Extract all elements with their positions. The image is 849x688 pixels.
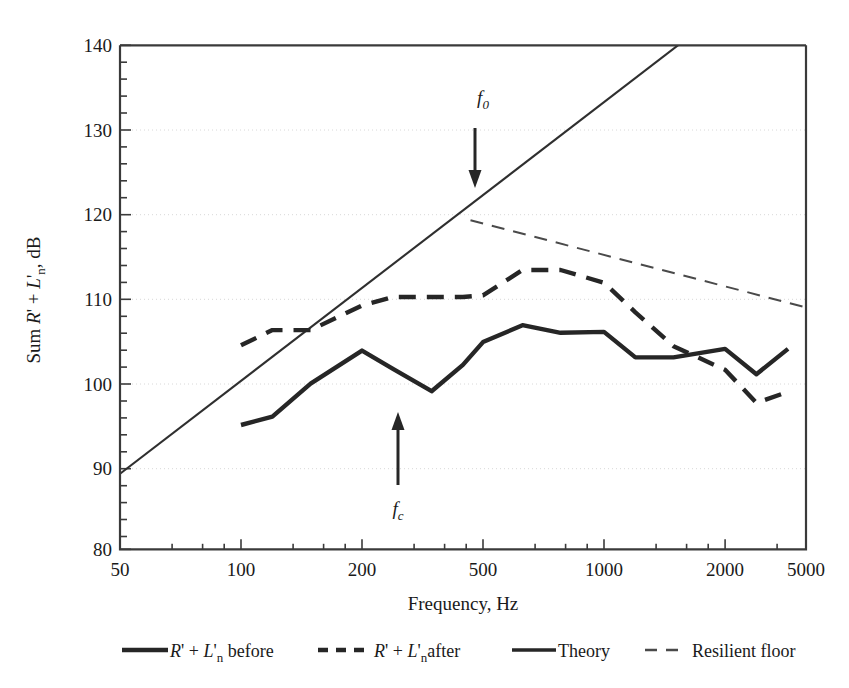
y-tick-label: 90 bbox=[93, 458, 112, 479]
legend-item-after[interactable]: R' + L'nafter bbox=[318, 641, 460, 665]
annotation-fc: fc bbox=[392, 412, 405, 523]
svg-text:f0: f0 bbox=[477, 87, 489, 112]
series-before bbox=[241, 325, 788, 425]
series-after bbox=[241, 270, 788, 403]
legend-after-tail: after bbox=[427, 641, 460, 661]
svg-text:fc: fc bbox=[392, 498, 403, 523]
legend-item-theory[interactable]: Theory bbox=[512, 641, 610, 661]
chart-svg: 140 130 120 110 100 90 80 50 100 200 500… bbox=[0, 0, 849, 688]
legend-after-l: L bbox=[406, 641, 417, 661]
legend-before-plus: + bbox=[184, 641, 203, 661]
x-tick-label: 100 bbox=[227, 559, 256, 580]
legend-after-r: R bbox=[373, 641, 385, 661]
y-tick-label: 130 bbox=[84, 120, 113, 141]
y-title-prefix: Sum bbox=[23, 324, 44, 364]
x-tick-label: 50 bbox=[111, 559, 130, 580]
annotation-f0: f0 bbox=[469, 87, 490, 188]
y-title-r: R bbox=[23, 312, 44, 325]
x-axis-ticks bbox=[120, 539, 806, 549]
y-title-suffix: , dB bbox=[23, 236, 44, 268]
legend-item-before[interactable]: R' + L'n before bbox=[122, 641, 274, 665]
x-tick-labels: 50 100 200 500 1000 2000 5000 bbox=[111, 559, 826, 580]
y-axis-title: Sum R' + L'n, dB bbox=[23, 236, 48, 363]
y-tick-labels: 140 130 120 110 100 90 80 bbox=[84, 35, 113, 560]
legend-resilient-label: Resilient floor bbox=[692, 641, 795, 661]
annotation-f0-subscript: 0 bbox=[482, 97, 489, 112]
series-resilient-floor bbox=[471, 220, 807, 307]
annotation-fc-subscript: c bbox=[398, 508, 404, 523]
x-tick-label: 500 bbox=[469, 559, 498, 580]
annotation-f0-arrow-head bbox=[469, 170, 482, 188]
x-axis-title: Frequency, Hz bbox=[408, 593, 519, 614]
y-title-l: L bbox=[23, 278, 44, 290]
x-tick-label: 1000 bbox=[585, 559, 623, 580]
y-tick-label: 120 bbox=[84, 204, 113, 225]
legend-item-resilient-floor[interactable]: Resilient floor bbox=[645, 641, 795, 661]
svg-text:R' + L'nafter: R' + L'nafter bbox=[373, 641, 460, 665]
y-title-plus: + bbox=[23, 289, 44, 309]
chart-legend: R' + L'n before R' + L'nafter Theory Res… bbox=[122, 641, 795, 665]
x-tick-label: 2000 bbox=[706, 559, 744, 580]
y-tick-label: 110 bbox=[84, 289, 112, 310]
legend-before-tail: before bbox=[223, 641, 273, 661]
y-tick-label: 100 bbox=[84, 374, 113, 395]
gridlines bbox=[120, 130, 806, 469]
legend-theory-label: Theory bbox=[558, 641, 610, 661]
annotation-fc-arrow-head bbox=[392, 412, 405, 430]
svg-text:R' + L'n before: R' + L'n before bbox=[169, 641, 274, 665]
y-tick-label: 140 bbox=[84, 35, 113, 56]
svg-text:Sum R' + L'n, dB: Sum R' + L'n, dB bbox=[23, 236, 48, 363]
x-tick-label: 5000 bbox=[787, 559, 825, 580]
y-tick-label: 80 bbox=[93, 539, 112, 560]
series-theory bbox=[120, 0, 806, 474]
x-tick-label: 200 bbox=[348, 559, 377, 580]
legend-after-plus: + bbox=[388, 641, 407, 661]
legend-before-r: R bbox=[169, 641, 181, 661]
legend-before-l: L bbox=[202, 641, 213, 661]
chart-figure: 140 130 120 110 100 90 80 50 100 200 500… bbox=[0, 0, 849, 688]
